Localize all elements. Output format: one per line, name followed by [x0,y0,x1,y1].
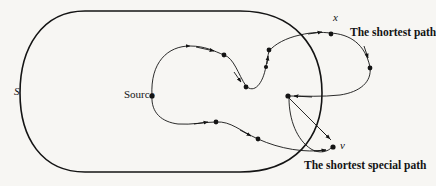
node-u2 [244,85,249,90]
node-label-v: v [340,140,345,151]
edge-u5-to-junction [290,67,370,96]
node-l2 [256,137,261,142]
arrow-seg-u3-to-u4 [267,56,268,64]
figure-container: S Source x v The shortest path The short… [0,0,436,186]
edge-l1-to-l2 [216,122,258,139]
region-label-s: S [14,86,20,97]
edge-l2-to-v [258,139,326,151]
edge-u1-to-u2 [224,55,246,86]
arrow-seg-junction-to-v-straight [320,129,330,139]
node-v [330,144,335,149]
node-u1 [222,53,227,58]
set-S-boundary [20,11,322,172]
shortest-path-label: The shortest path [350,27,436,39]
edge-source-to-l1 [152,96,216,124]
source-label: Source [124,89,155,100]
edge-u4-to-x [269,32,330,51]
node-label-x: x [333,12,338,23]
arrow-seg-u1-to-u2 [234,72,241,82]
arrow-seg-l1-to-l2 [240,130,251,136]
edge-junction-curve-to-v [289,98,332,152]
node-u5 [368,66,373,71]
node-u3 [264,65,268,69]
edge-source-to-u1 [152,46,224,96]
node-u4 [267,48,272,53]
node-junction [285,93,290,98]
node-x [329,32,334,37]
shortest-special-path-label: The shortest special path [304,160,426,172]
edge-u2-to-u3 [246,66,266,89]
node-l1 [214,120,219,125]
